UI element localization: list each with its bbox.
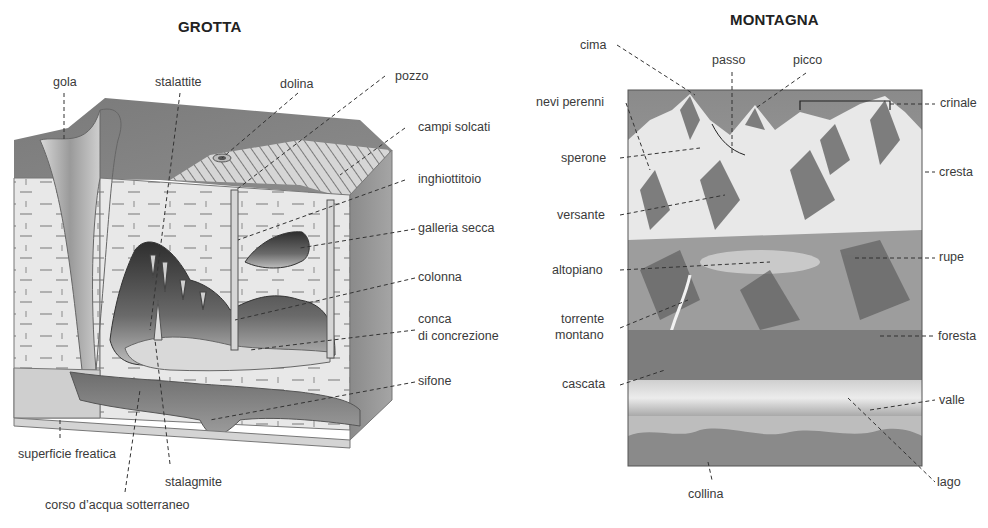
label-rupe: rupe (939, 250, 964, 265)
label-foresta: foresta (938, 329, 976, 344)
label-picco: picco (793, 53, 822, 68)
label-cascata: cascata (562, 377, 605, 392)
label-lago: lago (937, 475, 961, 490)
label-dolina: dolina (280, 77, 313, 92)
label-valle: valle (939, 393, 965, 408)
label-sperone: sperone (561, 151, 606, 166)
label-nevi-perenni: nevi perenni (536, 95, 604, 110)
label-superficie-freatica: superficie freatica (18, 447, 116, 462)
label-stalagmite: stalagmite (165, 475, 222, 490)
label-crinale: crinale (940, 96, 977, 111)
leader-lines (0, 0, 988, 528)
label-inghiottitoio: inghiottitoio (418, 172, 481, 187)
montagna-title: MONTAGNA (730, 11, 819, 28)
label-montano: montano (555, 328, 604, 343)
grotta-title: GROTTA (178, 18, 241, 35)
label-gola: gola (53, 75, 77, 90)
label-passo: passo (712, 53, 745, 68)
label-cresta: cresta (939, 165, 973, 180)
label-galleria-secca: galleria secca (418, 221, 494, 236)
label-stalattite: stalattite (155, 75, 202, 90)
label-di-concrezione: di concrezione (418, 329, 499, 344)
label-sifone: sifone (418, 374, 451, 389)
label-altopiano: altopiano (552, 263, 603, 278)
label-colonna: colonna (418, 270, 462, 285)
label-versante: versante (557, 208, 605, 223)
label-conca: conca (418, 312, 451, 327)
label-pozzo: pozzo (395, 69, 428, 84)
label-campi-solcati: campi solcati (418, 120, 490, 135)
label-torrente: torrente (561, 312, 604, 327)
label-cima: cima (580, 38, 606, 53)
label-collina: collina (688, 487, 723, 502)
label-corso-acqua: corso d’acqua sotterraneo (45, 498, 190, 513)
